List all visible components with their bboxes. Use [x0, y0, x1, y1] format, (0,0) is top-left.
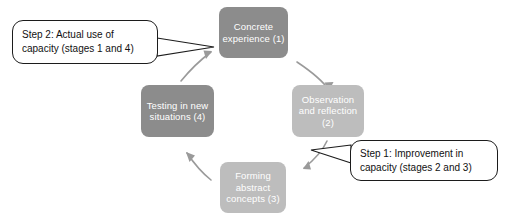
callout-step-2[interactable]: Step 2: Actual use of capacity (stages 1…: [12, 20, 158, 64]
node-label: Testing in new situations (4): [143, 100, 212, 123]
node-testing-in-new-situations[interactable]: Testing in new situations (4): [141, 85, 214, 137]
node-label: Forming abstract concepts (3): [222, 170, 284, 205]
diagram-canvas: Concrete experience (1) Observation and …: [0, 0, 509, 218]
arrow-4-to-1: [181, 51, 212, 82]
arrow-2-to-3: [303, 141, 327, 170]
node-observation-and-reflection[interactable]: Observation and reflection (2): [292, 85, 364, 137]
node-label: Observation and reflection (2): [294, 94, 362, 129]
callout-tail-step-1: [311, 145, 351, 163]
arrow-3-to-4: [186, 152, 211, 180]
node-label: Concrete experience (1): [221, 21, 286, 44]
node-concrete-experience[interactable]: Concrete experience (1): [219, 7, 288, 58]
node-forming-abstract-concepts[interactable]: Forming abstract concepts (3): [220, 162, 286, 213]
callout-step-2-text: Step 2: Actual use of capacity (stages 1…: [13, 28, 143, 56]
callout-step-1[interactable]: Step 1: Improvement in capacity (stages …: [350, 140, 498, 181]
callout-step-1-text: Step 1: Improvement in capacity (stages …: [351, 147, 481, 175]
